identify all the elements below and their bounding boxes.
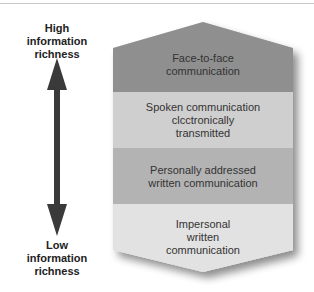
band-line: Face-to-face — [113, 52, 293, 65]
band-label-personal-written: Personally addressed written communicati… — [113, 164, 293, 190]
band-label-face-to-face: Face-to-face communication — [113, 52, 293, 78]
band-label-spoken-electronic: Spoken communication clcctronically tran… — [113, 101, 293, 140]
band-label-impersonal-written: Impersonal written communication — [113, 218, 293, 257]
band-line: communication — [113, 65, 293, 78]
low-label-line: Low — [0, 239, 114, 252]
low-richness-label: Low information richness — [0, 239, 114, 278]
band-line: written communication — [113, 177, 293, 190]
low-label-line: information — [0, 252, 114, 265]
band-line: Impersonal — [113, 218, 293, 231]
band-line: written — [113, 231, 293, 244]
band-line: transmitted — [113, 127, 293, 140]
band-line: clcctronically — [113, 114, 293, 127]
band-line: Personally addressed — [113, 164, 293, 177]
band-line: Spoken communication — [113, 101, 293, 114]
richness-arrow-icon — [47, 58, 67, 236]
low-label-line: richness — [0, 265, 114, 278]
band-line: communication — [113, 244, 293, 257]
